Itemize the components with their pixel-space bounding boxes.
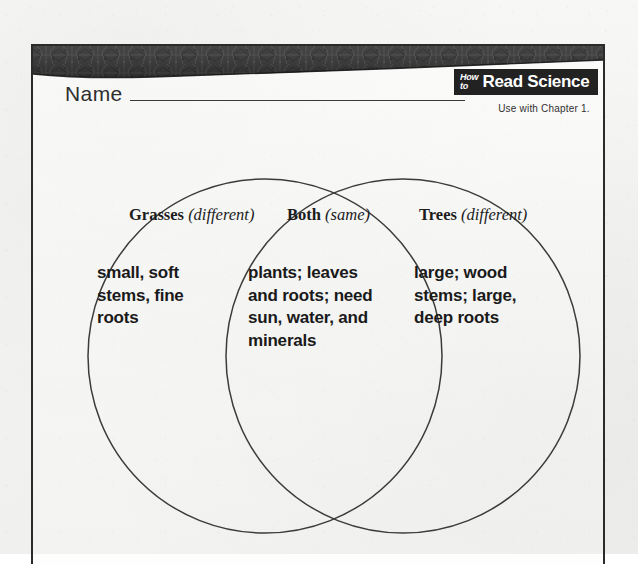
venn-circle-left: [88, 179, 442, 533]
venn-answer-both[interactable]: plants; leaves and roots; need sun, wate…: [248, 262, 398, 352]
logo-word-to: to: [460, 82, 478, 91]
venn-heading-left-title: Grasses: [129, 205, 184, 224]
logo-how-to-stack: How to: [460, 73, 478, 90]
venn-heading-both-title: Both: [287, 205, 321, 224]
venn-heading-right-qualifier: (different): [461, 205, 527, 224]
name-label: Name: [65, 82, 123, 106]
logo-title: Read Science: [482, 72, 589, 92]
venn-heading-both: Both (same): [287, 205, 370, 225]
venn-heading-both-qualifier: (same): [325, 205, 370, 224]
venn-heading-left: Grasses (different): [129, 205, 254, 225]
venn-heading-right-title: Trees: [419, 205, 457, 224]
venn-answer-left[interactable]: small, soft stems, fine roots: [97, 262, 232, 330]
venn-answer-right[interactable]: large; wood stems; large, deep roots: [414, 262, 564, 330]
name-field-row[interactable]: Name: [65, 82, 465, 106]
venn-heading-left-qualifier: (different): [188, 205, 254, 224]
worksheet-sheet: Name How to Read Science Use with Chapte…: [31, 44, 605, 564]
venn-heading-right: Trees (different): [419, 205, 527, 225]
how-to-read-science-logo: How to Read Science: [454, 69, 598, 95]
chapter-note: Use with Chapter 1.: [479, 103, 605, 114]
name-write-line[interactable]: [130, 100, 465, 101]
venn-circle-right: [226, 179, 580, 533]
